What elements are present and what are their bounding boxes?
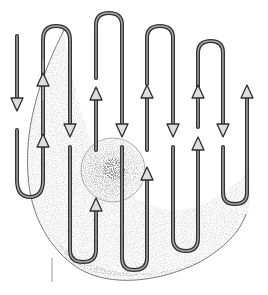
arrow-up-icon	[241, 85, 253, 98]
illustration: Breast self-examination vertical strip p…	[0, 0, 268, 295]
breast-exam-diagram	[0, 0, 268, 295]
arrow-up-icon	[192, 85, 204, 98]
arrow-down-icon	[217, 124, 229, 137]
arrow-down-icon	[167, 124, 179, 137]
arrow-down-icon	[116, 124, 128, 137]
arrow-up-icon	[192, 137, 204, 150]
arrow-down-icon	[11, 98, 23, 111]
areola	[81, 138, 145, 202]
arrow-up-icon	[90, 87, 102, 100]
arrow-up-icon	[141, 85, 153, 98]
